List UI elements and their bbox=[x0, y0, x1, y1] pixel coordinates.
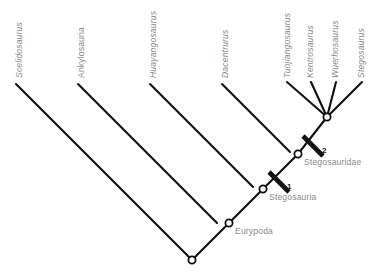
node-eurypoda bbox=[225, 219, 232, 226]
taxon-label-scelidosaurus: Scelidosaurus bbox=[14, 22, 24, 78]
branch-lines-group bbox=[16, 82, 362, 260]
phylogenetic-tree: EurypodaStegosauriaStegosauridae Scelido… bbox=[0, 0, 381, 274]
branch-root-eurypoda bbox=[192, 223, 229, 260]
branch-dacentrurus bbox=[222, 84, 290, 152]
branch-ankylosauria bbox=[78, 84, 217, 223]
marker-1-label: 1 bbox=[287, 182, 292, 191]
clade-label-stegosauria: Stegosauria bbox=[269, 192, 317, 202]
marker-2-bar bbox=[303, 136, 323, 156]
clade-label-eurypoda: Eurypoda bbox=[235, 226, 273, 236]
clade-labels-group: EurypodaStegosauriaStegosauridae bbox=[235, 157, 361, 236]
marker-2-label: 2 bbox=[322, 146, 327, 155]
taxon-label-dacentrurus: Dacentrurus bbox=[220, 29, 230, 78]
node-root bbox=[188, 256, 195, 263]
taxon-label-wuerhosaurus: Wuerhosaurus bbox=[330, 20, 340, 78]
cladogram-figure: EurypodaStegosauriaStegosauridae Scelido… bbox=[0, 0, 381, 274]
marker-1-bar bbox=[269, 172, 289, 192]
taxon-labels-group: ScelidosaurusAnkylosauriaHuayangosaurusD… bbox=[14, 10, 366, 78]
taxon-label-tuojiangosaurus: Tuojiangosaurus bbox=[282, 12, 292, 78]
node-stegosauria bbox=[259, 185, 266, 192]
node-polytomy bbox=[323, 113, 330, 120]
branch-tuojiangosaurus bbox=[287, 82, 327, 117]
node-stegosauridae bbox=[294, 150, 301, 157]
taxon-label-huayangosaurus: Huayangosaurus bbox=[148, 10, 158, 78]
taxon-label-stegosaurus: Stegosaurus bbox=[356, 28, 366, 78]
branch-kentrosaurus bbox=[311, 82, 327, 117]
taxon-label-kentrosaurus: Kentrosaurus bbox=[305, 25, 315, 78]
branch-eurypoda-stegosauria bbox=[229, 189, 263, 223]
clade-label-stegosauridae: Stegosauridae bbox=[304, 157, 361, 167]
taxon-label-ankylosauria: Ankylosauria bbox=[76, 27, 86, 78]
